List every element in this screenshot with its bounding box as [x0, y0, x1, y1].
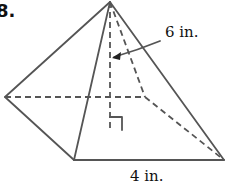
arrowhead-icon [112, 52, 121, 60]
right-angle-marker [110, 117, 122, 130]
height-label: 6 in. [165, 23, 199, 41]
problem-number: 8. [0, 0, 15, 21]
height-arrow [114, 41, 160, 57]
pyramid-diagram: 8. 6 in. 4 in. [0, 0, 251, 186]
lateral-edge-left [5, 2, 110, 97]
lateral-edge-front [74, 2, 110, 160]
base-edge-label: 4 in. [130, 167, 164, 185]
base-edge-left [5, 97, 74, 160]
